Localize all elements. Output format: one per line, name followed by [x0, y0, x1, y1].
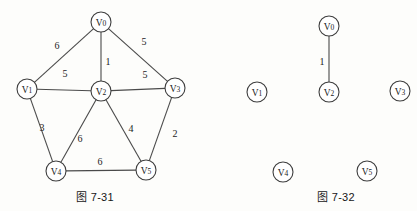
- graph-node: V3: [390, 81, 410, 101]
- figure-page: V0V1V2V3V4V5 6155536426 图 7-31 V0V1V2V3V…: [0, 0, 417, 211]
- node-label: V5: [362, 167, 373, 177]
- node-label: V4: [51, 167, 62, 177]
- graph-edge: [111, 88, 165, 90]
- graph-node: V2: [91, 81, 111, 101]
- graph-edge: [108, 29, 167, 82]
- graph-edge: [37, 89, 91, 90]
- graph-node: V5: [136, 160, 156, 180]
- graph-edge: [61, 100, 96, 163]
- graph-edge: [106, 100, 141, 162]
- node-label: V2: [324, 88, 335, 98]
- edge-weight-label: 6: [98, 157, 103, 167]
- node-label: V1: [22, 85, 33, 95]
- graph-node: V1: [17, 79, 37, 99]
- node-label: V1: [252, 88, 263, 98]
- graph-edge: [66, 170, 136, 171]
- graph-node: V1: [247, 82, 267, 102]
- graph-node: V3: [165, 78, 185, 98]
- graph-node: V0: [91, 12, 111, 32]
- edge-weight-label: 1: [106, 57, 111, 67]
- node-label: V0: [324, 22, 335, 32]
- graph-node: V2: [319, 82, 339, 102]
- node-label: V4: [278, 168, 289, 178]
- graph-edge: [149, 97, 171, 160]
- figure-7-32: V0V1V2V3V4V5 1 图 7-32: [220, 0, 417, 211]
- edge-weight-label: 1: [320, 57, 325, 67]
- graph-node: V0: [319, 16, 339, 36]
- node-label: V5: [141, 166, 152, 176]
- edge-weight-label: 6: [78, 134, 83, 144]
- figure-caption-7-32: 图 7-32: [317, 188, 355, 204]
- edge-weight-label: 3: [40, 123, 45, 133]
- graph-canvas-7-32: V0V1V2V3V4V5: [220, 0, 417, 211]
- edge-weight-label: 4: [129, 124, 134, 134]
- edge-weight-label: 5: [63, 69, 68, 79]
- edge-weight-label: 5: [142, 37, 147, 47]
- node-label: V0: [96, 18, 107, 28]
- graph-node: V4: [273, 162, 293, 182]
- node-label: V3: [395, 87, 406, 97]
- node-label: V2: [96, 87, 107, 97]
- graph-node: V5: [357, 161, 377, 181]
- graph-canvas-7-31: V0V1V2V3V4V5: [0, 0, 220, 211]
- edge-weight-label: 2: [173, 129, 178, 139]
- node-label: V3: [170, 84, 181, 94]
- figure-caption-7-31: 图 7-31: [76, 188, 114, 204]
- edge-weight-label: 5: [143, 70, 148, 80]
- graph-node: V4: [46, 161, 66, 181]
- edge-weight-label: 6: [55, 41, 60, 51]
- figure-7-31: V0V1V2V3V4V5 6155536426 图 7-31: [0, 0, 220, 211]
